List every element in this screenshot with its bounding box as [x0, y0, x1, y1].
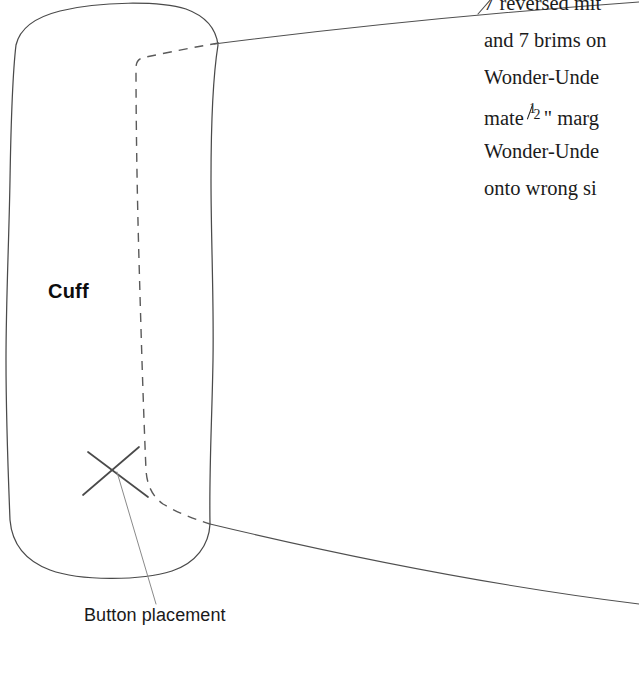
instruction-line-1: 7 reversed mit: [484, 0, 601, 14]
pattern-sheet: Cuff Button placement 7 reversed mit and…: [0, 0, 639, 674]
cuff-piece-label: Cuff: [48, 280, 89, 303]
instruction-line-4: mate 12" marg: [484, 104, 599, 128]
instruction-line-5: Wonder-Unde: [484, 141, 599, 162]
fraction-one-half-icon: 12: [529, 104, 544, 125]
fraction-denominator: 2: [533, 108, 540, 122]
instruction-text-column: 7 reversed mit and 7 brims on Wonder-Und…: [484, 0, 639, 215]
instruction-line-2: and 7 brims on: [484, 30, 606, 51]
guide-curve-bottom: [210, 524, 639, 604]
button-placement-label: Button placement: [84, 605, 226, 626]
cuff-outline: [6, 3, 218, 578]
instruction-line-4-head: mate: [484, 107, 529, 129]
instruction-line-3: Wonder-Unde: [484, 67, 599, 88]
fold-line-dashed: [136, 43, 219, 524]
leader-line: [117, 472, 156, 604]
instruction-line-4-tail: " marg: [544, 107, 599, 129]
instruction-line-6: onto wrong si: [484, 178, 597, 199]
